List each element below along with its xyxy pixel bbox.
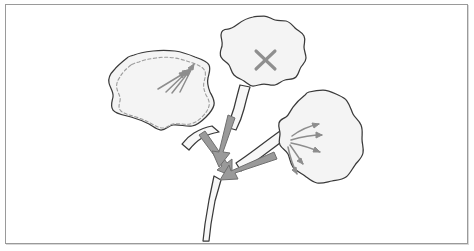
left-leaf-lamina: [109, 50, 214, 130]
top-leaf-lamina: [220, 16, 306, 86]
main-stem: [203, 176, 221, 241]
right-leaf-lamina: [279, 90, 364, 183]
figure-root: [0, 0, 474, 251]
right-leaf-group: [236, 90, 363, 183]
plant-diagram: [0, 0, 474, 251]
main-stem-group: [203, 176, 221, 241]
right-arrow-5-head: [292, 167, 297, 174]
